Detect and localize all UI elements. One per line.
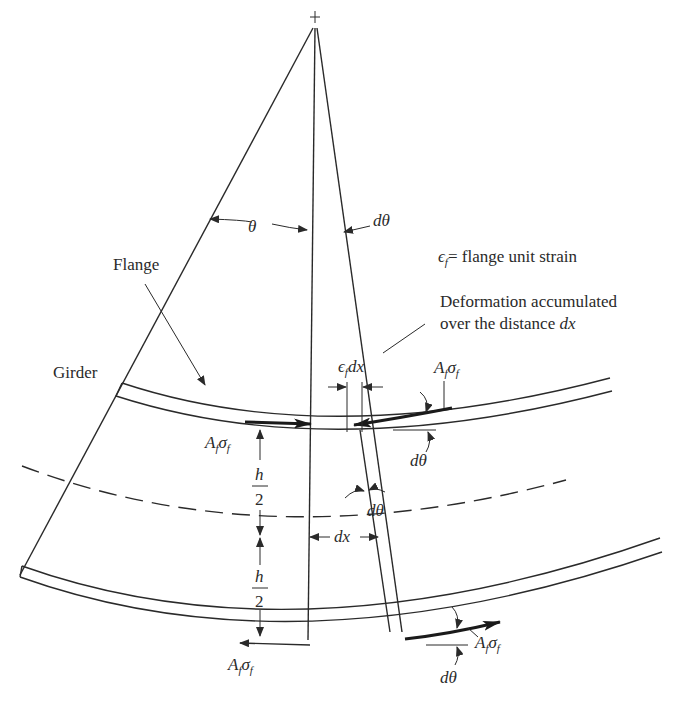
radial-line-left — [20, 28, 313, 575]
neutral-axis — [22, 466, 566, 517]
eps-dx-label: ϵfdx — [338, 357, 364, 378]
dtheta-bottom-arc-lower — [455, 647, 458, 665]
deformation-note-line1: Deformation accumulated — [440, 292, 618, 311]
top-flange-force-arrow-right — [354, 408, 452, 425]
two-label-lower: 2 — [255, 592, 264, 611]
dtheta-top-right-label: dθ — [410, 451, 427, 470]
girder-label: Girder — [53, 363, 98, 382]
bottom-flange-force-arrow-left — [240, 643, 310, 645]
dtheta-top-label: dθ — [373, 211, 390, 230]
theta-label: θ — [248, 217, 256, 236]
deformed-section-line — [360, 430, 390, 632]
dtheta-mid-arc-left — [345, 490, 364, 498]
dtheta-bottom-arc-upper — [452, 607, 458, 628]
flange-leader — [145, 284, 205, 385]
h-label-upper: h — [255, 465, 264, 484]
radial-line-center — [308, 28, 315, 640]
dtheta-top-arc-lower — [426, 432, 430, 452]
top-flange-force-arrow-left — [245, 422, 311, 424]
curved-girder-diagram: θ dθ ϵf= flange unit strain Deformation … — [0, 0, 683, 701]
deformation-leader — [383, 324, 425, 353]
force-label-bottom-left: Afσf — [227, 655, 255, 676]
top-flange — [116, 378, 612, 429]
force-label-top-left: Afσf — [204, 433, 232, 454]
center-of-curvature-icon — [310, 11, 320, 23]
dtheta-bottom-right-label: dθ — [440, 668, 457, 687]
dx-label: dx — [334, 527, 351, 546]
dtheta-top-arc-upper — [420, 392, 427, 412]
bottom-flange — [20, 538, 662, 621]
force-label-top-right: Afσf — [433, 358, 461, 379]
dtheta-mid-label: dθ — [367, 501, 384, 520]
radial-line-right — [317, 28, 402, 632]
strain-definition: ϵf= flange unit strain — [438, 247, 577, 268]
dtheta-top-leader — [344, 226, 370, 232]
flange-label: Flange — [113, 255, 159, 274]
h-label-lower: h — [255, 567, 264, 586]
force-label-bottom-right: Afσf — [474, 633, 502, 654]
bottom-flange-force-arrow-right — [405, 622, 500, 639]
theta-dimension — [210, 219, 307, 230]
two-label-upper: 2 — [255, 490, 264, 509]
deformation-note-line2: over the distance dx — [440, 314, 576, 333]
